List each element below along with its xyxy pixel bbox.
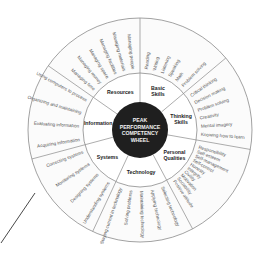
category-label-technology: Technology: [127, 169, 156, 175]
competency-wheel: ReadingWritingListeningSpeakingMathProbl…: [0, 0, 261, 255]
category-label-basic-skills: BasicSkills: [151, 85, 165, 97]
category-label-resources: Resources: [107, 89, 134, 95]
category-label-information: Information: [84, 120, 113, 126]
category-label-personal-qualities: PersonalQualities: [163, 149, 185, 161]
category-label-systems: Systems: [97, 154, 118, 160]
pointer-line: [1, 193, 35, 243]
